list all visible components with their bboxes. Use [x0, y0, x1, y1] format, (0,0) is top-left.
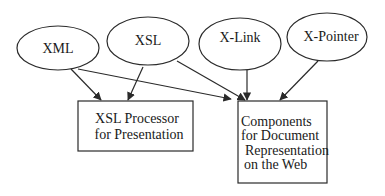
node-xlink: X-Link: [199, 18, 281, 70]
node-xpointer: X-Pointer: [287, 13, 367, 61]
node-xsl-label: XSL: [135, 33, 161, 48]
edge-xpointer-to-components: [280, 61, 318, 100]
node-processor-label-line-2: for Presentation: [94, 127, 183, 142]
edge-xsl-to-processor: [128, 67, 143, 100]
node-components-label-line-4: on the Web: [244, 157, 307, 172]
edge-xml-to-components: [78, 69, 231, 99]
node-xml: XML: [17, 26, 99, 70]
edge-xml-to-processor: [71, 69, 101, 100]
diagram-canvas: XML XSL X-Link X-Pointer XSL Processor f…: [0, 0, 385, 196]
node-components-label-line-1: Components: [241, 114, 312, 129]
node-xml-label: XML: [42, 41, 73, 56]
edges: [71, 61, 318, 100]
node-xlink-label: X-Link: [219, 30, 260, 45]
node-components: Components for Document Representation o…: [238, 101, 329, 183]
node-components-label-line-3: Representation: [245, 143, 329, 158]
node-processor-label-line-1: XSL Processor: [95, 111, 179, 126]
node-components-label-line-2: for Document: [241, 128, 319, 143]
node-xpointer-label: X-Pointer: [303, 29, 359, 44]
node-xsl: XSL: [107, 17, 189, 65]
node-processor: XSL Processor for Presentation: [78, 101, 193, 151]
